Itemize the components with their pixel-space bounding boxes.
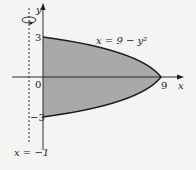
rotation-axis-label: x = −1 [14,147,49,158]
tick-y-top: 3 [35,32,41,43]
y-axis-label: y [35,4,42,15]
x-axis-label: x [178,80,184,91]
curve-equation-label: x = 9 − y² [96,35,147,46]
tick-x-right: 9 [161,80,167,91]
origin-label: 0 [35,79,41,90]
x-axis-arrow-icon [177,75,184,80]
rotation-arrowhead-icon [29,21,33,25]
diagram-canvas: y x 3 −3 0 9 x = 9 − y² x = −1 [0,0,196,170]
tick-y-bottom: −3 [30,112,45,123]
